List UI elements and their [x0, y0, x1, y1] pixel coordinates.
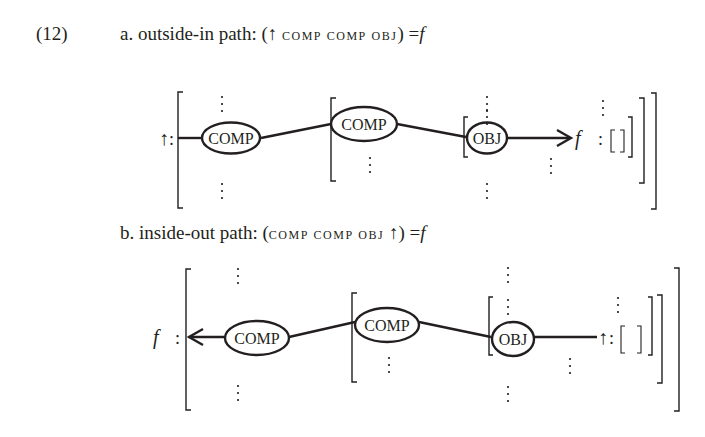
fstructure-diagrams: COMP COMP OBJ ↑ : f : COMP COMP OBJ [0, 0, 705, 437]
up-arrow-icon: ↑ [159, 127, 169, 149]
diagram-a [178, 92, 656, 209]
outer-bracket-right [674, 268, 679, 411]
empty-bracket-right [637, 326, 641, 353]
outer-bracket-left [178, 92, 183, 208]
node-comp-2-label: COMP [364, 317, 409, 334]
diagram-b-ellipsis-dots [237, 267, 619, 402]
diagram-a-ellipsis-dots [221, 96, 604, 199]
empty-bracket-right [620, 130, 624, 152]
node-comp-2-label: COMP [341, 116, 386, 133]
node-comp-1-label: COMP [208, 130, 253, 147]
middle-bracket-left [331, 98, 336, 181]
inner-bracket-right [648, 297, 652, 355]
outer-bracket-left [186, 269, 191, 410]
node-obj-label: OBJ [499, 331, 527, 348]
f-label: f [153, 326, 161, 349]
middle-bracket-right [657, 295, 662, 383]
empty-bracket-left [611, 130, 615, 152]
node-obj-label: OBJ [473, 130, 501, 147]
f-label: f [575, 127, 583, 150]
middle-bracket-left [352, 293, 357, 382]
inner-bracket-left [489, 297, 493, 355]
outer-bracket-right [651, 93, 656, 209]
up-arrow-icon: ↑ [598, 326, 608, 348]
colon: : [598, 129, 603, 149]
empty-bracket-left [621, 326, 625, 353]
middle-bracket-right [639, 98, 644, 183]
colon: : [175, 328, 180, 348]
colon: : [609, 328, 614, 348]
colon: : [169, 129, 174, 149]
node-comp-1-label: COMP [234, 330, 279, 347]
inner-bracket-right [628, 117, 632, 157]
